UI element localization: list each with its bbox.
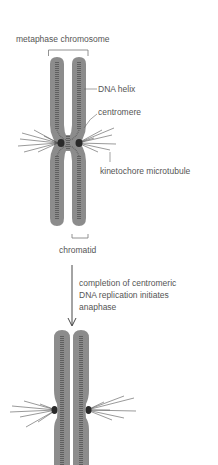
chromatid-bracket: [72, 234, 88, 238]
chromatid-label: chromatid: [59, 245, 97, 255]
kinetochore-microtubule-label: kinetochore microtubule: [100, 166, 191, 176]
anaphase-dna-ladders: [60, 336, 83, 465]
anaphase-left-microtubules: [10, 401, 56, 427]
centromere-label: centromere: [98, 107, 141, 117]
caption-line-2: DNA replication initiates: [79, 290, 169, 300]
right-kinetochore: [76, 139, 83, 147]
left-kinetochore: [58, 139, 65, 147]
caption-line-1: completion of centromeric: [79, 278, 177, 288]
transition-arrow-group: completion of centromeric DNA replicatio…: [68, 265, 177, 326]
anaphase-right-microtubules: [87, 396, 136, 420]
metaphase-bracket: [49, 50, 89, 56]
anaphase-left-kinetochore: [52, 406, 58, 414]
chromosome-anaphase-diagram: metaphase chromosome: [0, 0, 218, 465]
metaphase-chromosome-label: metaphase chromosome: [16, 34, 110, 44]
metaphase-chromosome-group: metaphase chromosome: [16, 34, 191, 255]
caption-line-3: anaphase: [79, 302, 117, 312]
anaphase-chromatids-group: [10, 330, 136, 465]
dna-helix-label: DNA helix: [98, 84, 136, 94]
anaphase-right-kinetochore: [86, 406, 92, 414]
